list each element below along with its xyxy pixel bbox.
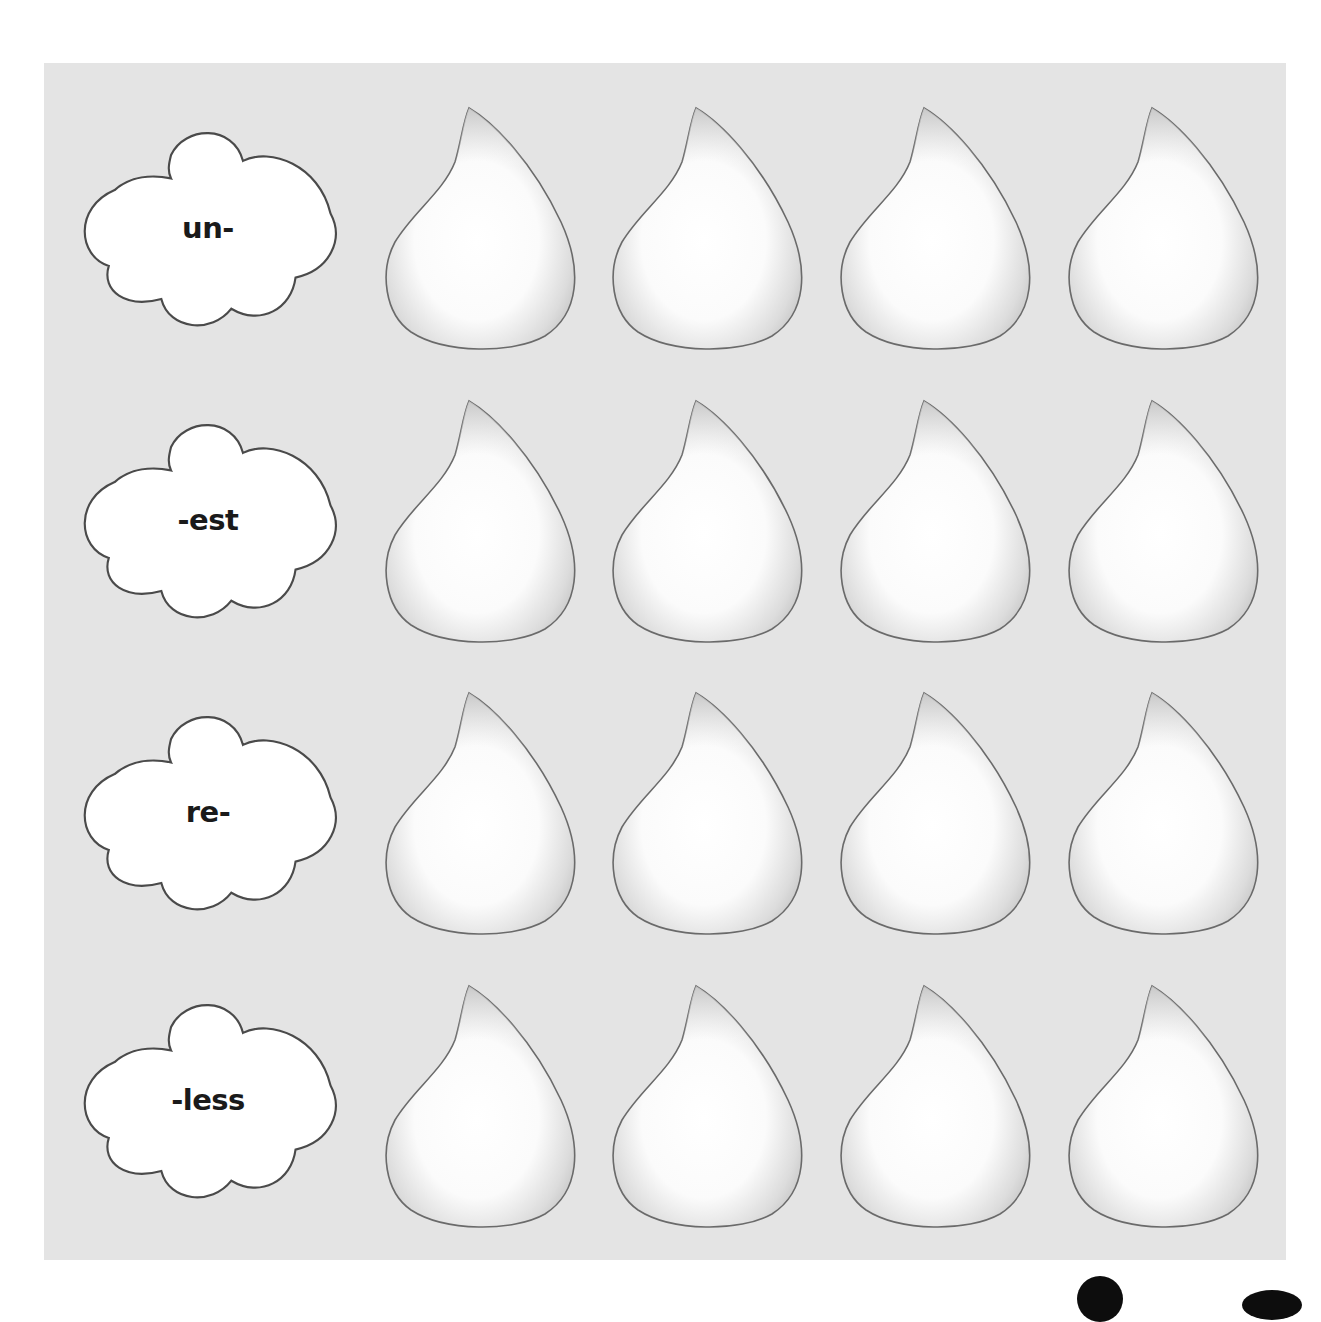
raindrop-icon [383,687,583,937]
decorative-dot [1242,1290,1302,1320]
raindrop-icon [838,687,1038,937]
raindrop-icon [383,980,583,1230]
raindrop-icon [1066,687,1266,937]
word-drop-blank[interactable] [838,687,1038,937]
word-drop-blank[interactable] [610,687,810,937]
word-drop-blank[interactable] [610,395,810,645]
raindrop-icon [838,980,1038,1230]
raindrop-icon [1066,102,1266,352]
word-drop-blank[interactable] [838,980,1038,1230]
word-drop-blank[interactable] [383,102,583,352]
word-drop-blank[interactable] [610,102,810,352]
raindrop-icon [610,980,810,1230]
raindrop-icon [383,395,583,645]
cloud-card-un: un- [72,122,344,334]
word-drop-blank[interactable] [383,980,583,1230]
raindrop-icon [838,395,1038,645]
decorative-dot [1077,1276,1123,1322]
affix-label: -est [72,414,344,626]
word-drop-blank[interactable] [383,687,583,937]
raindrop-icon [610,687,810,937]
raindrop-icon [838,102,1038,352]
cloud-card-re: re- [72,706,344,918]
word-drop-blank[interactable] [1066,687,1266,937]
word-drop-blank[interactable] [1066,102,1266,352]
cloud-card-less: -less [72,994,344,1206]
word-drop-blank[interactable] [838,395,1038,645]
affix-label: un- [72,122,344,334]
affix-label: -less [72,994,344,1206]
word-drop-blank[interactable] [838,102,1038,352]
affix-label: re- [72,706,344,918]
raindrop-icon [1066,395,1266,645]
word-drop-blank[interactable] [1066,980,1266,1230]
raindrop-icon [1066,980,1266,1230]
word-drop-blank[interactable] [1066,395,1266,645]
raindrop-icon [610,102,810,352]
word-drop-blank[interactable] [383,395,583,645]
raindrop-icon [383,102,583,352]
raindrop-icon [610,395,810,645]
word-drop-blank[interactable] [610,980,810,1230]
cloud-card-est: -est [72,414,344,626]
